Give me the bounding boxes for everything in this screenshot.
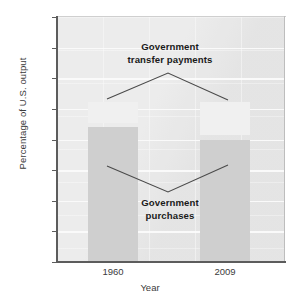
annotation-purchases-line2: purchases: [95, 209, 245, 222]
bar-1960-transfer-payments: [88, 102, 138, 123]
y-tick-mark-30: [52, 78, 57, 79]
annotation-transfer-line1: Government: [95, 40, 245, 53]
annotation-purchases-line1: Government: [95, 196, 245, 209]
gridline-30: [57, 78, 285, 80]
y-tick-mark-40: [52, 17, 57, 18]
annotation-transfer-payments: Government transfer payments: [95, 40, 245, 66]
y-tick-mark-20: [52, 140, 57, 141]
y-tick-mark-15: [52, 170, 57, 171]
annotation-purchases: Government purchases: [95, 196, 245, 222]
bar-2009-transfer-payments: [200, 102, 250, 136]
x-axis-line: [56, 261, 286, 263]
x-tick-label-2009: 2009: [190, 266, 260, 277]
y-tick-mark-0: [52, 262, 57, 263]
y-tick-mark-10: [52, 201, 57, 202]
plot-top-border: [56, 16, 286, 17]
plot-right-border: [284, 16, 285, 263]
chart-figure: Percentage of U.S. output 40 35 30 25 20…: [0, 0, 300, 296]
annotation-transfer-line2: transfer payments: [95, 53, 245, 66]
x-tick-label-1960: 1960: [78, 266, 148, 277]
x-axis-label: Year: [0, 282, 300, 293]
y-tick-mark-35: [52, 48, 57, 49]
bar-1960-purchases: [88, 127, 138, 262]
y-axis-label: Percentage of U.S. output: [17, 34, 28, 194]
y-tick-mark-5: [52, 231, 57, 232]
y-tick-mark-25: [52, 109, 57, 110]
